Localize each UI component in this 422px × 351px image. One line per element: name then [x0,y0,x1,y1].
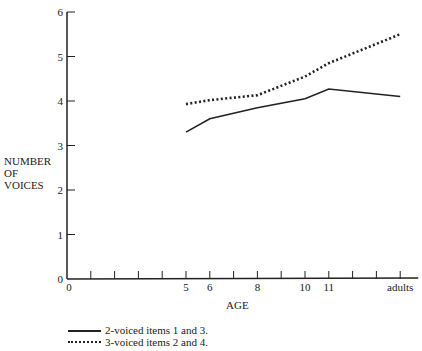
y-axis-label-line: NUMBER [4,155,51,167]
legend-label: 3-voiced items 2 and 4. [105,337,208,349]
legend-item-solid: 2-voiced items 1 and 3. [68,325,208,337]
x-axis-label: AGE [226,299,249,311]
y-tick-label: 3 [58,140,64,152]
legend: 2-voiced items 1 and 3. 3-voiced items 2… [68,325,208,348]
y-axis-label-line: VOICES [4,179,51,191]
axes: 012345605681011adults [58,6,419,293]
y-tick-label: 6 [58,6,64,18]
y-tick-label: 1 [58,229,64,241]
x-tick-label: 6 [207,281,213,293]
legend-item-dotted: 3-voiced items 2 and 4. [68,337,208,349]
y-tick-label: 2 [58,184,64,196]
x-tick-label: 10 [300,281,312,293]
x-tick-label: 0 [66,281,72,293]
solid-series-line [186,89,400,132]
y-axis-label: NUMBER OF VOICES [4,155,51,191]
x-tick-label: 5 [183,281,189,293]
line-chart: 012345605681011adults [0,0,422,351]
x-tick-label: 11 [324,281,335,293]
data-series [186,34,400,132]
y-tick-label: 0 [58,273,64,285]
solid-line-swatch-icon [68,330,101,332]
x-tick-label: adults [387,281,413,293]
x-tick-label: 8 [255,281,261,293]
dotted-line-swatch-icon [68,341,101,343]
legend-label: 2-voiced items 1 and 3. [105,325,208,337]
y-tick-label: 5 [58,51,64,63]
y-tick-label: 4 [58,95,64,107]
y-axis-label-line: OF [4,167,51,179]
x-axis [67,278,418,279]
